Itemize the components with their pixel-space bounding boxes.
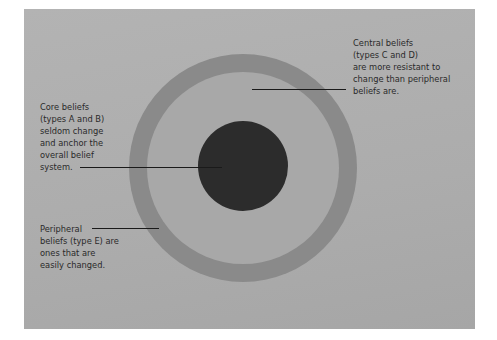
- central-beliefs-leader-line: [252, 89, 346, 90]
- core-beliefs-circle: [198, 121, 288, 211]
- central-beliefs-label: Central beliefs (types C and D) are more…: [353, 37, 450, 97]
- peripheral-beliefs-leader-line: [92, 228, 159, 229]
- core-beliefs-label: Core beliefs (types A and B) seldom chan…: [40, 101, 104, 173]
- diagram-panel: Central beliefs (types C and D) are more…: [24, 9, 475, 329]
- core-beliefs-leader-line: [80, 167, 222, 168]
- peripheral-beliefs-label: Peripheral beliefs (type E) are ones tha…: [40, 223, 119, 271]
